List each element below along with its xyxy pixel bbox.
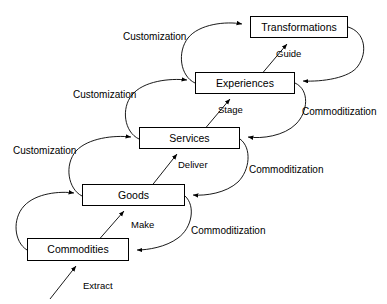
- node-commodities-label: Commodities: [47, 244, 108, 255]
- node-transformations-label: Transformations: [261, 22, 336, 33]
- edge-label-make: Make: [131, 220, 154, 230]
- edge-verb-deliver: [150, 154, 177, 188]
- node-goods[interactable]: Goods: [82, 184, 185, 206]
- node-goods-label: Goods: [118, 190, 149, 201]
- node-transformations[interactable]: Transformations: [250, 16, 348, 38]
- edge-label-customization-2: Customization: [73, 90, 136, 100]
- edge-label-deliver: Deliver: [178, 160, 208, 170]
- node-commodities[interactable]: Commodities: [27, 238, 129, 261]
- node-experiences-label: Experiences: [216, 78, 274, 89]
- node-experiences[interactable]: Experiences: [195, 72, 295, 94]
- economic-value-progression-diagram: Commodities Goods Services Experiences T…: [0, 0, 387, 304]
- edge-label-extract: Extract: [83, 281, 113, 291]
- edge-label-customization-1: Customization: [123, 32, 186, 42]
- edge-label-guide: Guide: [276, 49, 301, 59]
- edge-label-commoditization-3: Commoditization: [191, 226, 265, 236]
- node-services[interactable]: Services: [139, 127, 240, 149]
- node-services-label: Services: [169, 133, 209, 144]
- edge-label-commoditization-1: Commoditization: [302, 107, 376, 117]
- edge-label-commoditization-2: Commoditization: [249, 165, 323, 175]
- edge-label-stage: Stage: [218, 105, 243, 115]
- edge-label-customization-3: Customization: [13, 146, 76, 156]
- edge-verb-extract: [50, 266, 76, 299]
